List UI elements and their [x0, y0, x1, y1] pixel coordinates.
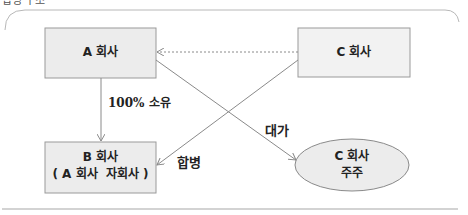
- node-b-label: B 회사 ( A 회사 자회사 ): [45, 149, 156, 183]
- edge-c-to-b-label: 합병: [177, 152, 201, 171]
- edge-a-to-shareholders-label: 대가: [265, 120, 289, 139]
- frame-top: [5, 10, 459, 30]
- node-b-line1: B 회사: [45, 149, 156, 166]
- node-c-shareholders-label: C 회사 주주: [295, 148, 409, 182]
- edge-a-to-b-label: 100% 소유: [108, 93, 171, 110]
- node-c-shareholders-line1: C 회사: [295, 148, 409, 165]
- node-a-label: A 회사: [45, 44, 156, 61]
- edge-a-to-shareholders-arrow: [156, 60, 296, 160]
- node-b-line2: ( A 회사 자회사 ): [45, 166, 156, 183]
- node-c-label: C 회사: [298, 44, 410, 61]
- node-c-shareholders-line2: 주주: [295, 165, 409, 182]
